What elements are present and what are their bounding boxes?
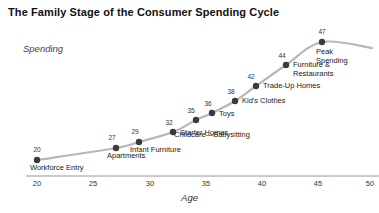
data-point-label: PeakSpending xyxy=(316,48,348,65)
data-point-value: 35 xyxy=(187,107,194,114)
data-point-label: Kid's Clothes xyxy=(242,97,286,106)
data-point-label-line1: Kid's Clothes xyxy=(242,97,286,106)
data-point-label-line1: Childcare—Babysitting xyxy=(174,131,250,140)
data-point-label-line1: Toys xyxy=(219,110,234,119)
data-point-label: Trade-Up Homes xyxy=(263,82,320,91)
data-point-dot xyxy=(319,39,325,45)
data-point-label: Workforce Entry xyxy=(30,164,84,173)
data-point-dot xyxy=(283,62,289,68)
data-point-label: Infant Furniture xyxy=(130,146,181,155)
x-tick-label: 40 xyxy=(258,179,266,188)
data-point-value: 38 xyxy=(227,88,234,95)
spending-cycle-chart: The Family Stage of the Consumer Spendin… xyxy=(0,0,379,213)
data-point-label-line1: Workforce Entry xyxy=(30,164,84,173)
data-point-dot xyxy=(253,83,259,89)
data-point-label-line1: Infant Furniture xyxy=(130,146,181,155)
data-point-value: 47 xyxy=(318,28,325,35)
data-point-dot xyxy=(193,117,199,123)
x-tick-label: 45 xyxy=(314,179,322,188)
x-tick-label: 50 xyxy=(366,179,374,188)
data-point-value: 44 xyxy=(278,52,285,59)
x-tick-label: 30 xyxy=(146,179,154,188)
data-point-dot xyxy=(209,110,215,116)
data-point-value: 42 xyxy=(247,73,254,80)
data-point-value: 36 xyxy=(204,100,211,107)
data-point-label-line1: Trade-Up Homes xyxy=(263,82,320,91)
data-point-label: Childcare—Babysitting xyxy=(174,131,250,140)
data-point-dot xyxy=(232,98,238,104)
data-point-value: 20 xyxy=(33,146,40,153)
data-point-value: 29 xyxy=(131,128,138,135)
data-point-value: 27 xyxy=(108,134,115,141)
x-tick-label: 35 xyxy=(202,179,210,188)
data-point-label-line2: Spending xyxy=(316,57,348,66)
x-tick-label: 20 xyxy=(33,179,41,188)
x-axis-label: Age xyxy=(0,192,379,203)
data-point-value: 32 xyxy=(165,119,172,126)
x-tick-label: 25 xyxy=(89,179,97,188)
data-point-label: Toys xyxy=(219,110,234,119)
data-point-label-line2: Restaurants xyxy=(293,70,333,79)
